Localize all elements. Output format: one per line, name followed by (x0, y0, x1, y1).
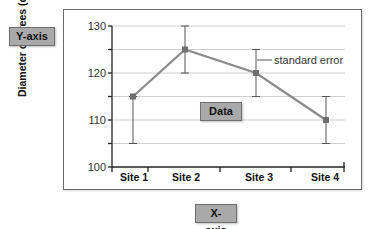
ytick-100: 100 (88, 161, 106, 173)
line-chart: 130 120 110 100 Site 1 Site 2 Site 3 Sit… (0, 0, 370, 229)
y-axis-title: Diameter of Trees (cm) (16, 0, 28, 97)
xtick-site-3: Site 3 (245, 171, 273, 183)
ytick-130: 130 (88, 20, 106, 32)
y-axis-tag: Y-axis (9, 27, 55, 46)
xtick-site-4: Site 4 (311, 171, 339, 183)
standard-error-annotation: standard error (274, 54, 343, 66)
xtick-site-1: Site 1 (120, 171, 148, 183)
x-axis-tag: X-axis (195, 204, 237, 223)
axes (108, 26, 345, 172)
error-bars (129, 26, 330, 144)
xtick-site-2: Site 2 (172, 171, 200, 183)
ytick-110: 110 (88, 114, 106, 126)
ytick-120: 120 (88, 67, 106, 79)
data-tag: Data (200, 102, 242, 121)
